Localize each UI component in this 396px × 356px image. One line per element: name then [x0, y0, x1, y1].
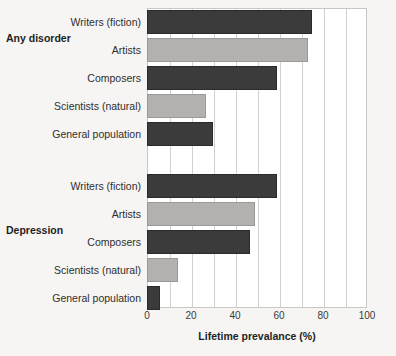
bar-category-label: Artists	[3, 38, 141, 62]
bar-category-label: Composers	[3, 66, 141, 90]
bar-row: General population	[147, 286, 367, 310]
bar	[147, 230, 250, 254]
bar-row: Writers (fiction)	[147, 10, 367, 34]
bar-row: Artists	[147, 38, 367, 62]
bar-row: Writers (fiction)	[147, 174, 367, 198]
bar	[147, 38, 308, 62]
bar-category-label: Scientists (natural)	[3, 258, 141, 282]
x-tick-label: 0	[144, 310, 150, 321]
x-axis-title: Lifetime prevalance (%)	[147, 330, 367, 342]
bar-category-label: General population	[3, 286, 141, 310]
bar-row: General population	[147, 122, 367, 146]
bar-category-label: Writers (fiction)	[3, 174, 141, 198]
bar	[147, 122, 213, 146]
x-tick-label: 40	[229, 310, 240, 321]
bar-category-label: General population	[3, 122, 141, 146]
bar-row: Scientists (natural)	[147, 258, 367, 282]
bar-category-label: Writers (fiction)	[3, 10, 141, 34]
bar-category-label: Artists	[3, 202, 141, 226]
bar	[147, 258, 178, 282]
bar-category-label: Scientists (natural)	[3, 94, 141, 118]
bar-chart: Any disorder Writers (fiction)ArtistsCom…	[0, 0, 396, 356]
chart-group-any-disorder: Any disorder Writers (fiction)ArtistsCom…	[0, 8, 396, 148]
x-tick-label: 20	[185, 310, 196, 321]
x-tick-label: 80	[317, 310, 328, 321]
bar	[147, 174, 277, 198]
bar	[147, 10, 312, 34]
x-tick-label: 100	[359, 310, 376, 321]
bar-category-label: Composers	[3, 230, 141, 254]
bar-row: Composers	[147, 230, 367, 254]
bar-row: Scientists (natural)	[147, 94, 367, 118]
bar-row: Composers	[147, 66, 367, 90]
bar-row: Artists	[147, 202, 367, 226]
bar	[147, 202, 255, 226]
chart-group-depression: Depression Writers (fiction)ArtistsCompo…	[0, 172, 396, 312]
x-tick-label: 60	[273, 310, 284, 321]
x-axis-ticks: 020406080100	[147, 310, 367, 326]
bar	[147, 66, 277, 90]
bar	[147, 286, 160, 310]
bar	[147, 94, 206, 118]
